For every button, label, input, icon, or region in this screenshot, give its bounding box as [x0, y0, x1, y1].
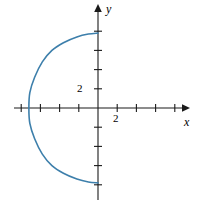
graph-figure: x y 2 2	[0, 0, 200, 203]
y-axis-label: y	[106, 3, 111, 15]
x-axis-arrowhead	[182, 104, 190, 112]
plot-canvas	[0, 0, 200, 203]
x-axis-label: x	[184, 116, 189, 128]
y-axis-arrowhead	[94, 4, 102, 12]
y-axis-tick-label-2: 2	[77, 83, 83, 94]
x-axis-tick-label-2: 2	[113, 113, 119, 124]
